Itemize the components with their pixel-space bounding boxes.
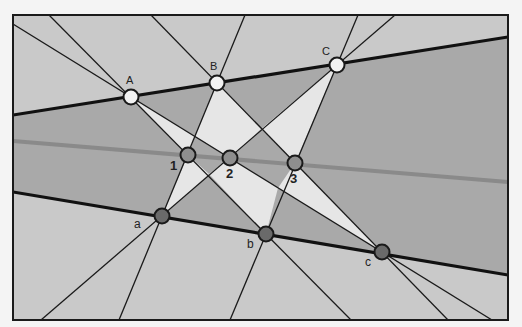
- label-2: 2: [226, 166, 233, 181]
- label-c: c: [365, 255, 371, 269]
- point-b[interactable]: [259, 227, 274, 242]
- point-C[interactable]: [330, 58, 345, 73]
- pappus-diagram: A B C 1 2 3 a b c: [0, 0, 522, 327]
- point-1[interactable]: [181, 148, 196, 163]
- point-a[interactable]: [155, 209, 170, 224]
- point-2[interactable]: [223, 151, 238, 166]
- point-3[interactable]: [288, 156, 303, 171]
- label-C: C: [322, 45, 330, 57]
- label-1: 1: [170, 158, 177, 173]
- point-B[interactable]: [210, 76, 225, 91]
- label-A: A: [126, 74, 134, 86]
- label-a: a: [134, 217, 141, 231]
- label-3: 3: [290, 171, 297, 186]
- label-b: b: [247, 237, 254, 251]
- point-A[interactable]: [124, 90, 139, 105]
- label-B: B: [210, 60, 217, 72]
- point-c[interactable]: [375, 245, 390, 260]
